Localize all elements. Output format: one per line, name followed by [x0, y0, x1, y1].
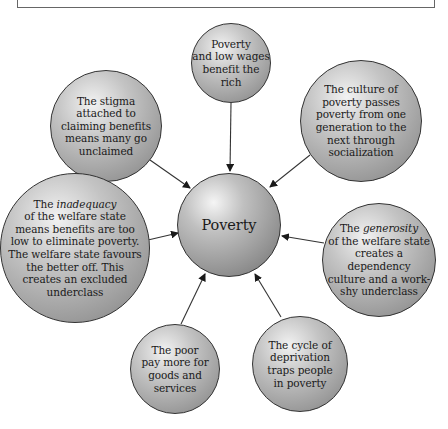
text-line: traps people [267, 364, 332, 377]
text-line: low to eliminate poverty. [8, 235, 141, 248]
prefix-text: The [340, 222, 363, 234]
text-line: in poverty [267, 377, 332, 390]
arrow-top [230, 103, 231, 171]
node-text: The generosity of the welfare state crea… [323, 222, 435, 298]
node-inadequacy: The inadequacy of the welfare state mean… [0, 173, 150, 323]
text-line: pay more for [141, 356, 208, 369]
text-line: poverty from one [316, 108, 407, 121]
node-text: The poor pay more for goods and services [141, 344, 208, 394]
text-line: The poor [141, 344, 208, 357]
text-line: The inadequacy [8, 198, 141, 211]
text-line: underclass [8, 286, 141, 299]
arrow-top-left [150, 160, 190, 188]
node-text: The inadequacy of the welfare state mean… [8, 198, 141, 299]
arrow-left [148, 233, 178, 240]
text-line: creates a dependency [323, 247, 435, 272]
arrow-bottom-left [181, 274, 205, 324]
text-line: claiming benefits [61, 120, 151, 133]
text-line: of the welfare state [323, 235, 435, 248]
text-line: The cycle of [267, 339, 332, 352]
node-text: The culture of poverty passes poverty fr… [316, 83, 407, 159]
node-text: Poverty and low wages benefit the rich [192, 38, 269, 88]
node-low-wages-benefit-rich: Poverty and low wages benefit the rich [191, 23, 271, 103]
text-line: culture and a work- [323, 273, 435, 286]
text-line: means benefits are too [8, 223, 141, 236]
arrow-bottom-right [255, 274, 281, 317]
text-line: generation to the [316, 121, 407, 134]
arrow-right [282, 236, 324, 243]
text-line: goods and [141, 369, 208, 382]
prefix-text: The [34, 198, 57, 210]
text-line: poverty passes [316, 96, 407, 109]
node-poor-pay-more: The poor pay more for goods and services [130, 324, 220, 414]
emphasis-text: inadequacy [57, 198, 117, 210]
text-line: The stigma [61, 95, 151, 108]
text-line: rich [192, 76, 269, 89]
text-line: next through [316, 134, 407, 147]
node-generosity: The generosity of the welfare state crea… [322, 203, 436, 317]
text-line: attached to [61, 107, 151, 120]
text-line: services [141, 382, 208, 395]
text-line: unclaimed [61, 145, 151, 158]
text-line: and low wages [192, 50, 269, 63]
text-line: means many go [61, 132, 151, 145]
arrow-top-right [270, 155, 310, 187]
text-line: The generosity [323, 222, 435, 235]
text-line: shy underclass [323, 285, 435, 298]
node-text: The cycle of deprivation traps people in… [267, 339, 332, 389]
text-line: deprivation [267, 351, 332, 364]
text-line: The culture of [316, 83, 407, 96]
text-line: socialization [316, 146, 407, 159]
text-line: benefit the [192, 63, 269, 76]
text-line: creates an excluded [8, 273, 141, 286]
node-text: The stigma attached to claiming benefits… [61, 95, 151, 158]
text-line: the better off. This [8, 261, 141, 274]
text-line: of the welfare state [8, 210, 141, 223]
node-stigma: The stigma attached to claiming benefits… [50, 70, 162, 182]
node-cycle-of-deprivation: The cycle of deprivation traps people in… [252, 316, 348, 412]
emphasis-text: generosity [363, 222, 418, 234]
center-label: Poverty [202, 217, 257, 233]
center-node-poverty: Poverty [177, 173, 281, 277]
text-line: Poverty [192, 38, 269, 51]
node-culture-of-poverty: The culture of poverty passes poverty fr… [300, 60, 422, 182]
text-line: The welfare state favours [8, 248, 141, 261]
